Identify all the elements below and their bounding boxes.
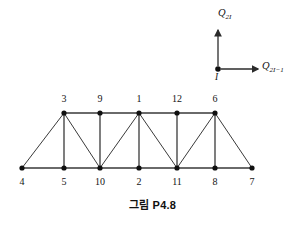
- horizontal-axis-label: Q2I−1: [262, 61, 284, 74]
- truss-member: [64, 113, 100, 168]
- node-label-6: 6: [213, 94, 218, 104]
- truss-member: [215, 113, 252, 168]
- truss-node: [212, 110, 217, 115]
- truss-member: [177, 113, 215, 168]
- node-label-10: 10: [95, 177, 105, 187]
- truss-member: [139, 113, 177, 168]
- node-label-2: 2: [137, 177, 142, 187]
- truss-member: [22, 113, 64, 168]
- node-label-3: 3: [62, 94, 67, 104]
- node-label-5: 5: [62, 177, 67, 187]
- truss-node: [97, 110, 102, 115]
- truss-node: [212, 165, 217, 170]
- truss-node: [136, 165, 141, 170]
- truss-node: [136, 110, 141, 115]
- truss-node: [61, 165, 66, 170]
- truss-node: [97, 165, 102, 170]
- coordinate-origin-dot: [215, 66, 221, 72]
- truss-member: [100, 113, 139, 168]
- node-label-12: 12: [172, 94, 182, 104]
- truss-node: [174, 110, 179, 115]
- coordinate-indicator-axes: [215, 30, 258, 72]
- truss-node: [249, 165, 254, 170]
- truss-node: [61, 110, 66, 115]
- truss-node: [174, 165, 179, 170]
- truss-node: [19, 165, 24, 170]
- vertical-axis-label: Q2I: [218, 8, 231, 21]
- node-label-8: 8: [213, 177, 218, 187]
- node-label-1: 1: [137, 94, 142, 104]
- node-label-9: 9: [98, 94, 103, 104]
- node-label-7: 7: [250, 177, 255, 187]
- figure-container: 391126451021187 Q2I Q2I−1 I 그림 P4.8: [0, 0, 305, 227]
- node-label-4: 4: [20, 177, 25, 187]
- truss-diagram-canvas: [0, 0, 305, 227]
- origin-label: I: [215, 73, 218, 83]
- figure-caption: 그림 P4.8: [0, 196, 305, 212]
- truss-members: [22, 113, 252, 168]
- node-label-11: 11: [172, 177, 182, 187]
